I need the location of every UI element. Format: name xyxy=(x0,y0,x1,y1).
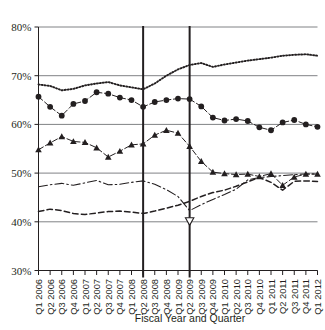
series-marker-circle xyxy=(245,118,251,124)
series-group-0 xyxy=(39,54,318,90)
x-axis-tick-label: Q2 2007 xyxy=(92,279,102,315)
series-marker-circle xyxy=(291,117,297,123)
y-axis-tick-label: 60% xyxy=(11,118,31,130)
series-marker-circle xyxy=(94,89,100,95)
y-axis-tick-label: 30% xyxy=(11,265,31,277)
x-axis-tick-label: Q2 2006 xyxy=(46,279,56,315)
x-axis-tick-label: Q3 2008 xyxy=(150,279,160,315)
series-marker-triangle xyxy=(117,148,124,154)
x-axis-tick-label: Q1 2006 xyxy=(34,279,44,315)
series-marker-circle xyxy=(36,94,42,100)
series-marker-circle xyxy=(268,127,274,133)
series-marker-circle xyxy=(256,124,262,130)
x-axis-tick-label: Q3 2011 xyxy=(290,279,300,314)
series-marker-triangle xyxy=(35,146,42,152)
series-marker-triangle xyxy=(93,144,100,150)
x-axis-tick-label: Q2 2009 xyxy=(185,279,195,315)
series-marker-circle xyxy=(105,91,111,97)
x-axis-tick-label: Q4 2007 xyxy=(115,279,125,315)
series-marker-circle xyxy=(315,124,321,130)
x-axis-tick-label: Q3 2006 xyxy=(57,279,67,315)
x-axis-tick-label: Q4 2008 xyxy=(162,279,172,315)
y-axis-tick-label: 40% xyxy=(11,216,31,228)
series-group-5 xyxy=(39,197,318,235)
series-group-2 xyxy=(35,127,321,188)
series-marker-circle xyxy=(140,104,146,110)
series-marker-circle xyxy=(233,116,239,122)
x-axis-tick-label: Q1 2009 xyxy=(174,279,184,315)
x-axis-tick-label: Q4 2006 xyxy=(69,279,79,315)
y-axis-tick-label: 50% xyxy=(11,167,31,179)
series-marker-circle xyxy=(129,97,135,103)
x-axis-title: Fiscal Year and Quarter xyxy=(135,312,246,324)
series-marker-circle xyxy=(82,98,88,104)
series-marker-circle xyxy=(210,115,216,121)
x-axis-tick-label: Q1 2010 xyxy=(220,279,230,315)
x-axis-tick-label: Q1 2012 xyxy=(313,279,323,315)
x-axis-tick-label: Q4 2010 xyxy=(255,279,265,315)
x-axis-tick-label: Q3 2010 xyxy=(243,279,253,315)
y-axis-tick-label: 80% xyxy=(11,21,31,33)
series-marker-circle xyxy=(70,101,76,107)
series-marker-circle xyxy=(280,120,286,126)
series-line xyxy=(39,197,318,235)
series-marker-circle xyxy=(303,122,309,128)
series-marker-circle xyxy=(187,96,193,102)
x-axis-tick-label: Q1 2008 xyxy=(127,279,137,315)
series-marker-triangle xyxy=(175,130,182,136)
x-axis-tick-label: Q4 2011 xyxy=(301,279,311,314)
series-marker-triangle xyxy=(47,140,54,146)
x-axis-tick-label: Q2 2010 xyxy=(232,279,242,315)
series-marker-triangle xyxy=(140,141,147,147)
series-marker-circle xyxy=(47,104,53,110)
series-marker-circle xyxy=(152,99,158,105)
series-marker-circle xyxy=(117,95,123,101)
x-axis-tick-label: Q3 2007 xyxy=(104,279,114,315)
x-axis-tick-label: Q4 2009 xyxy=(208,279,218,315)
series-marker-triangle xyxy=(151,132,158,138)
x-axis-tick-label: Q2 2011 xyxy=(278,279,288,314)
series-marker-triangle xyxy=(244,171,251,177)
series-marker-circle xyxy=(198,103,204,109)
line-chart: 80%70%60%50%40%30%Q1 2006Q2 2006Q3 2006Q… xyxy=(0,0,325,330)
series-marker-circle xyxy=(163,97,169,103)
series-marker-triangle xyxy=(58,133,65,139)
chart-canvas: 80%70%60%50%40%30%Q1 2006Q2 2006Q3 2006Q… xyxy=(0,0,325,330)
series-group-1 xyxy=(36,89,321,133)
series-marker-triangle xyxy=(163,127,170,133)
y-axis-tick-label: 70% xyxy=(11,70,31,82)
series-marker-triangle xyxy=(70,138,77,144)
series-marker-circle xyxy=(175,96,181,102)
x-axis-tick-label: Q2 2008 xyxy=(139,279,149,315)
series-marker-circle xyxy=(59,113,65,119)
series-line xyxy=(39,130,318,185)
x-axis-tick-label: Q1 2011 xyxy=(267,279,277,314)
x-axis-tick-label: Q3 2009 xyxy=(197,279,207,315)
x-axis-tick-label: Q1 2007 xyxy=(81,279,91,315)
series-line xyxy=(39,54,318,90)
series-marker-circle xyxy=(222,118,228,124)
